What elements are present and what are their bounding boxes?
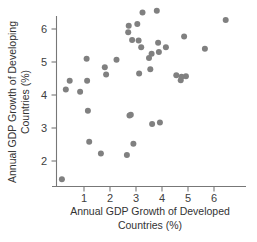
scatter-plot-canvas: 23456 123456 Annual GDP Growth of Develo… [0,0,257,242]
data-point [136,71,142,77]
data-point [63,86,69,92]
data-point [202,46,208,52]
y-tick-label-6: 6 [41,23,47,35]
data-point [173,72,179,78]
data-point [77,89,83,95]
x-axis: 123456 [52,187,246,205]
x-tick-label-6: 6 [211,192,217,204]
data-point [114,57,120,63]
data-point [103,72,109,78]
data-point [125,29,131,35]
y-tick-label-4: 4 [41,89,47,101]
data-points-layer [59,8,229,182]
x-tick-label-1: 1 [81,192,87,204]
x-tick-label-5: 5 [185,192,191,204]
data-point [147,66,153,72]
y-axis-tick-labels: 23456 [41,23,47,167]
data-point [102,64,108,70]
data-point [134,21,140,27]
y-tick-label-5: 5 [41,56,47,68]
x-axis-tick-labels: 123456 [81,192,217,204]
data-point [155,40,161,46]
y-axis-ticks [52,29,57,161]
data-point [183,73,189,79]
x-axis-ticks [84,187,214,192]
y-tick-label-2: 2 [41,155,47,167]
y-axis-title-line1: Annual GDP Growth of Developing [6,21,18,183]
data-point [67,78,73,84]
x-axis-title: Annual GDP Growth of Developed Countries… [70,205,230,231]
x-axis-title-line2: Countries (%) [118,219,182,231]
scatter-plot-figure: 23456 123456 Annual GDP Growth of Develo… [0,0,257,242]
data-point [181,34,187,40]
data-point [84,78,90,84]
data-point [163,44,169,50]
data-point [130,141,136,147]
data-point [124,152,130,158]
y-axis-title: Annual GDP Growth of Developing Countrie… [6,21,31,183]
x-tick-label-4: 4 [159,192,165,204]
x-axis-title-line1: Annual GDP Growth of Developed [70,205,230,217]
y-tick-label-3: 3 [41,122,47,134]
data-point [129,37,135,43]
data-point [154,8,160,14]
data-point [138,44,144,50]
y-axis-title-line2: Countries (%) [19,70,31,134]
data-point [59,176,65,182]
data-point [126,23,132,29]
data-point [86,139,92,145]
x-tick-label-3: 3 [133,192,139,204]
data-point [136,38,142,44]
data-point [84,56,90,62]
data-point [149,121,155,127]
data-point [98,150,104,156]
data-point [128,112,134,118]
data-point [157,119,163,125]
data-point [140,10,146,16]
data-point [223,17,229,23]
data-point [149,51,155,57]
x-tick-label-2: 2 [107,192,113,204]
data-point [156,49,162,55]
data-point [85,108,91,114]
y-axis: 23456 [41,16,57,186]
